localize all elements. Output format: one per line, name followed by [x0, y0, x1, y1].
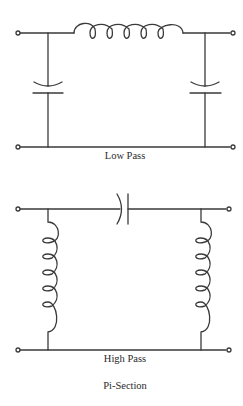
pi-section-diagram [0, 0, 243, 406]
high-pass-circuit [16, 194, 231, 352]
terminal-icon [16, 207, 20, 211]
terminal-icon [231, 31, 235, 35]
high-pass-label: High Pass [104, 353, 146, 364]
terminal-icon [231, 145, 235, 149]
diagram-title: Pi-Section [103, 380, 147, 391]
shunt-capacitor-icon [190, 33, 221, 147]
shunt-inductor-icon [196, 209, 212, 350]
terminal-icon [227, 348, 231, 352]
shunt-capacitor-icon [33, 33, 63, 147]
terminal-icon [16, 145, 20, 149]
terminal-icon [16, 348, 20, 352]
series-inductor-icon [74, 23, 183, 38]
shunt-inductor-icon [43, 209, 59, 350]
terminal-icon [16, 31, 20, 35]
low-pass-label: Low Pass [105, 150, 146, 161]
low-pass-circuit [16, 23, 235, 149]
terminal-icon [227, 207, 231, 211]
